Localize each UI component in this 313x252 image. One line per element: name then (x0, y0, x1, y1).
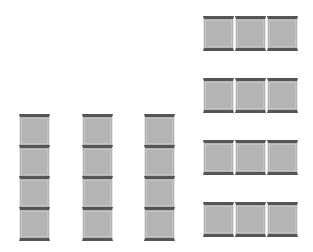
tile (144, 176, 175, 207)
tile (267, 16, 298, 51)
tile (235, 16, 266, 51)
vertical-strip-3 (144, 114, 175, 241)
tile (82, 114, 113, 145)
tile (203, 16, 234, 51)
vertical-strip-1 (19, 114, 50, 241)
horizontal-strip-2 (203, 78, 298, 113)
horizontal-strip-1 (203, 16, 298, 51)
tile (203, 78, 234, 113)
tile (19, 176, 50, 207)
tile (82, 145, 113, 176)
tile (267, 78, 298, 113)
tile (144, 114, 175, 145)
tile (144, 207, 175, 241)
tile (19, 114, 50, 145)
horizontal-strip-3 (203, 140, 298, 175)
tile (82, 207, 113, 241)
tile (144, 145, 175, 176)
tile (235, 78, 266, 113)
horizontal-strip-4 (203, 202, 298, 237)
tile (19, 207, 50, 241)
tile (82, 176, 113, 207)
tile (267, 202, 298, 237)
vertical-strip-2 (82, 114, 113, 241)
tile (267, 140, 298, 175)
tile (203, 202, 234, 237)
tile (203, 140, 234, 175)
tile (235, 140, 266, 175)
tile (235, 202, 266, 237)
tile (19, 145, 50, 176)
